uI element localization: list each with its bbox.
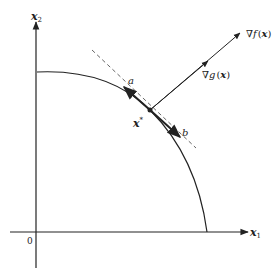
optimal-point xyxy=(148,108,153,113)
x-axis-label: x1 xyxy=(249,226,261,240)
gradient-g-arrow xyxy=(150,61,208,110)
constraint-curve xyxy=(37,72,207,232)
y-axis-label: x2 xyxy=(30,10,42,24)
gradient-f-label: ∇f(x) xyxy=(246,28,272,39)
tangent-line xyxy=(92,50,196,148)
tangent-arrow-b xyxy=(150,110,180,137)
optimality-diagram: x2 x1 0 x* a b ∇f(x) ∇g(x) xyxy=(0,0,278,271)
tangent-arrow-a xyxy=(124,87,150,110)
gradient-g-label: ∇g(x) xyxy=(202,69,230,80)
tangent-label-a: a xyxy=(128,75,134,86)
origin-label: 0 xyxy=(27,236,33,246)
optimal-point-label: x* xyxy=(132,116,144,130)
tangent-label-b: b xyxy=(182,127,188,138)
